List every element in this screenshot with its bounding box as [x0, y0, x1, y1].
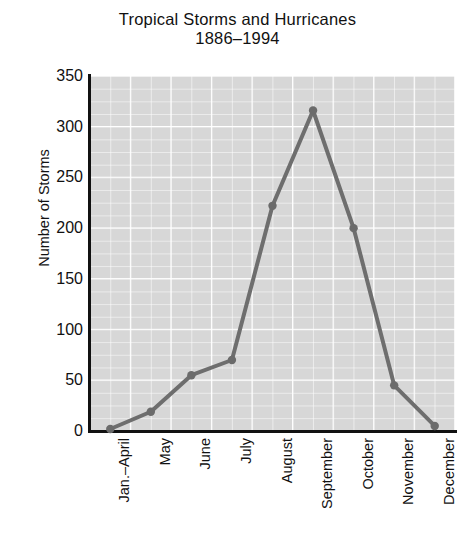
- x-tick-label: May: [157, 438, 173, 465]
- chart-figure: Tropical Storms and Hurricanes 1886–1994…: [0, 0, 475, 545]
- x-tick-label: November: [400, 438, 416, 505]
- x-tick-label: August: [279, 438, 295, 483]
- x-axis-tick-labels: Jan.–AprilMayJuneJulyAugustSeptemberOcto…: [0, 0, 475, 545]
- x-tick-label: July: [238, 438, 254, 464]
- x-tick-label: September: [319, 438, 335, 509]
- x-tick-label: June: [197, 438, 213, 469]
- x-tick-label: Jan.–April: [116, 438, 132, 502]
- x-tick-label: October: [360, 438, 376, 490]
- x-tick-label: December: [441, 438, 457, 505]
